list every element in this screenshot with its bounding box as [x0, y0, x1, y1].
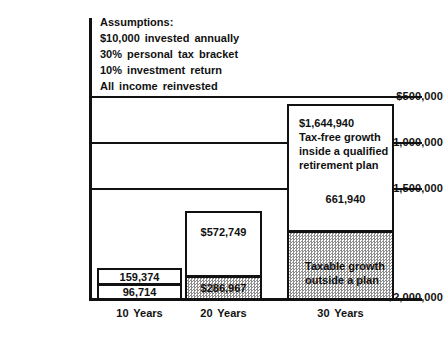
assumptions-line-5: All income reinvested — [100, 78, 239, 94]
bar-30-years-shaded-line-2: outside a plan — [305, 273, 379, 287]
bar-30-years-mid-label: 661,940 — [326, 192, 366, 206]
bar-10-years-segment-tax-free: 159,374 — [97, 268, 182, 285]
y-tick-label-0: $500,000 — [357, 90, 443, 102]
bar-30-years-segment-tax-free: $1,644,940 Tax-free growth inside a qual… — [287, 104, 394, 232]
assumptions-line-3: 30% personal tax bracket — [100, 46, 239, 62]
bar-10-years-top-label: 159,374 — [120, 270, 160, 284]
bar-20-years-segment-tax-free: $572,749 — [185, 211, 262, 277]
bar-30-years-amount-label: $1,644,940 — [299, 116, 354, 130]
bar-20-years-segment-taxable: $286,967 — [185, 276, 262, 300]
y-axis-line — [89, 18, 92, 300]
bar-30-years-annotation-line-1: Tax-free growth — [299, 130, 381, 144]
assumptions-block: Assumptions: $10,000 invested annually 3… — [100, 14, 239, 94]
assumptions-line-2: $10,000 invested annually — [100, 30, 239, 46]
chart-container: Assumptions: $10,000 invested annually 3… — [0, 0, 443, 339]
bar-10-years-segment-taxable: 96,714 — [97, 284, 182, 300]
assumptions-line-4: 10% investment return — [100, 62, 239, 78]
x-category-label-30-years: 30 Years — [287, 307, 394, 319]
bar-30-years-annotation-line-3: retirement plan — [299, 158, 378, 172]
bar-30-years-annotation-line-2: inside a qualified — [299, 144, 388, 158]
x-category-label-10-years: 10 Years — [97, 307, 182, 319]
bar-30-years-segment-taxable: Taxable growth outside a plan — [287, 231, 394, 300]
x-category-label-20-years: 20 Years — [185, 307, 262, 319]
bar-20-years-top-label: $572,749 — [201, 225, 247, 239]
assumptions-line-1: Assumptions: — [100, 14, 239, 30]
bar-30-years-shaded-line-1: Taxable growth — [305, 259, 385, 273]
bar-10-years-bottom-label: 96,714 — [123, 285, 157, 299]
bar-20-years-bottom-label: $286,967 — [201, 281, 247, 295]
